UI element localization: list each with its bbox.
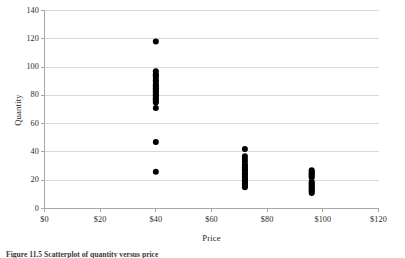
x-tick-label-40: $40 [150, 216, 163, 224]
x-tick-label-120: $120 [370, 216, 387, 224]
x-tick-label-80: $80 [261, 216, 274, 224]
data-points [153, 39, 315, 196]
series-0 [153, 39, 315, 196]
x-tick-marks [41, 11, 379, 213]
y-tick-label-20: 20 [14, 176, 39, 184]
data-point [242, 184, 248, 190]
axes [45, 11, 379, 209]
x-tick-label-60: $60 [205, 216, 218, 224]
y-tick-label-40: 40 [14, 148, 39, 156]
x-axis-title: Price [202, 233, 221, 243]
data-point [153, 169, 159, 175]
gridlines [45, 11, 379, 181]
figure-caption-text: Figure 11.5 Scatterplot of quantity vers… [6, 250, 158, 258]
data-point [153, 105, 159, 111]
data-point [153, 139, 159, 145]
data-point [309, 190, 315, 196]
y-tick-label-0: 0 [14, 204, 39, 212]
x-tick-label-20: $20 [94, 216, 107, 224]
x-tick-label-100: $100 [314, 216, 331, 224]
data-point [242, 146, 248, 152]
y-tick-label-100: 100 [14, 63, 39, 71]
figure-caption: Figure 11.5 Scatterplot of quantity vers… [6, 250, 398, 258]
data-point [153, 39, 159, 45]
data-point [153, 99, 159, 105]
scatter-chart [0, 0, 405, 258]
y-tick-label-120: 120 [14, 35, 39, 43]
x-tick-label-0: $0 [40, 216, 48, 224]
y-tick-label-140: 140 [14, 6, 39, 14]
y-axis-title: Quantity [13, 94, 23, 126]
figure-root: 020406080100120140$0$20$40$60$80$100$120… [0, 0, 405, 258]
plot-canvas [0, 0, 405, 258]
